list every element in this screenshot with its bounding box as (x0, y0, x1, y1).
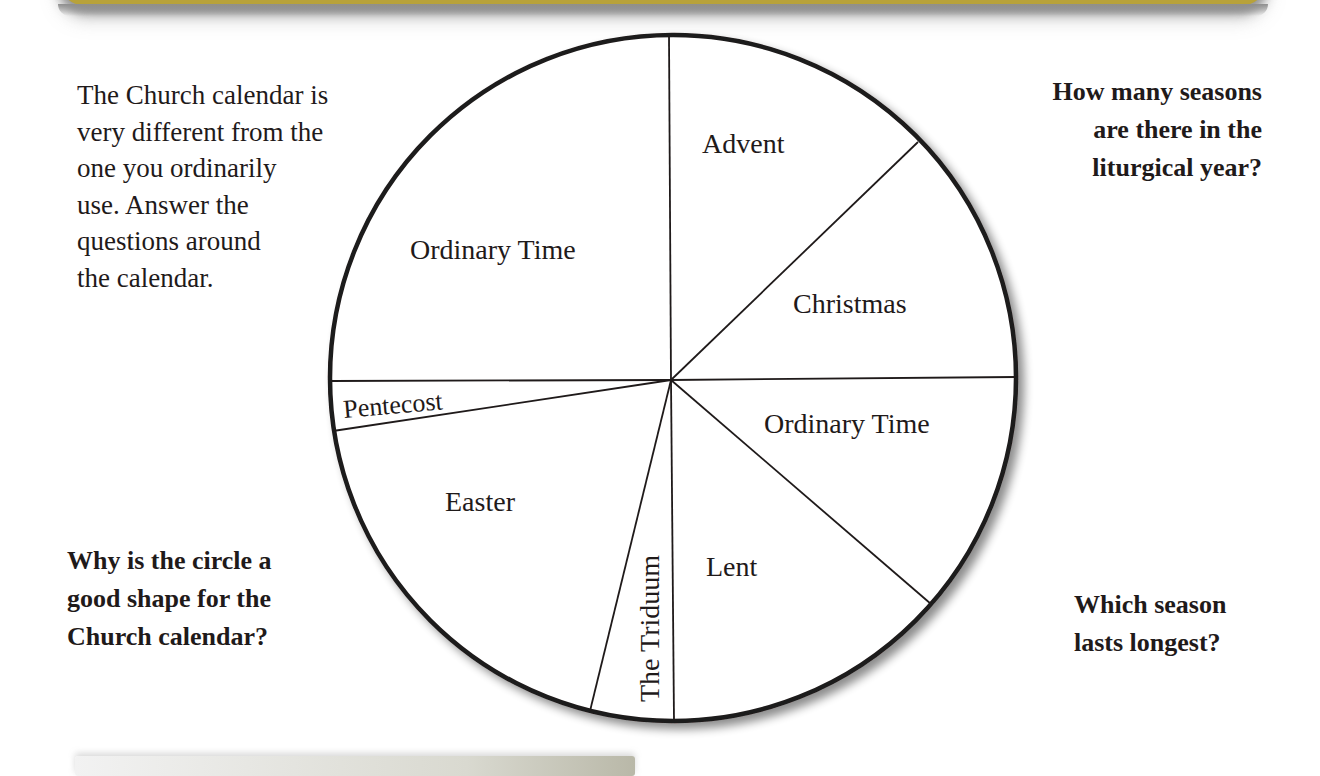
divider-left (331, 380, 671, 381)
segment-ordinary-time-lower: Ordinary Time (764, 408, 930, 439)
segment-easter: Easter (445, 486, 516, 517)
segment-advent: Advent (702, 128, 785, 159)
segment-christmas: Christmas (793, 288, 907, 319)
segment-lent: Lent (706, 551, 758, 582)
segment-triduum: The Triduum (634, 555, 665, 702)
segment-ordinary-time-upper: Ordinary Time (410, 234, 576, 265)
